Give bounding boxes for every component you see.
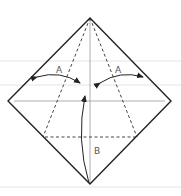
- fold-arrow-bottom: [81, 96, 89, 183]
- fold-line-right: [90, 18, 137, 137]
- label-a-right: A: [115, 65, 122, 75]
- origami-diagram: A A B: [0, 0, 181, 196]
- label-b: B: [94, 146, 100, 156]
- fold-arrow-left: [37, 75, 80, 83]
- fold-arrow-right: [100, 75, 143, 83]
- label-a-left: A: [56, 65, 63, 75]
- fold-line-left: [43, 18, 90, 137]
